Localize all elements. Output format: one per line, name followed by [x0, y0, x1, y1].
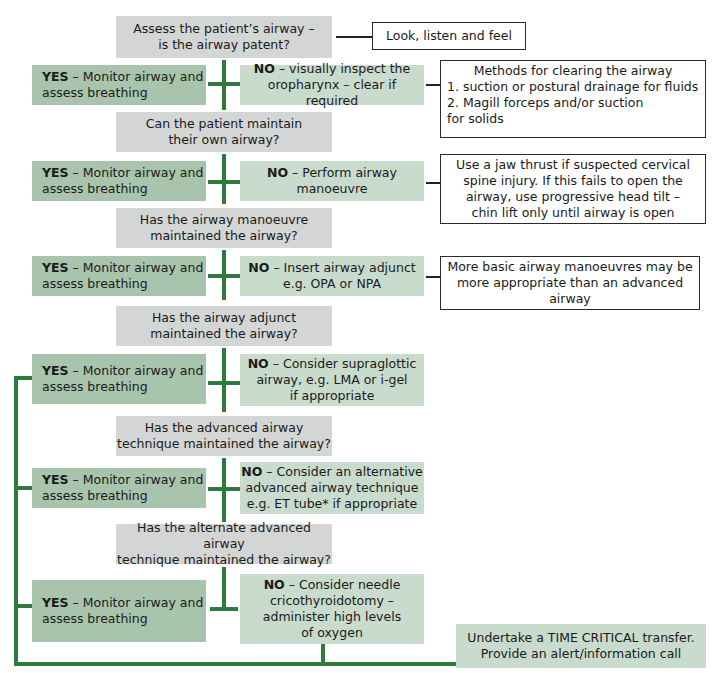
yes-bracket-line [14, 376, 18, 666]
note-item: 1. suction or postural drainage for flui… [447, 79, 699, 95]
no-text: NO – Perform airway manoeuvre [267, 165, 397, 197]
question-text: Has the advanced airway technique mainta… [117, 420, 331, 452]
yes-box: YES – Monitor airway and assess breathin… [32, 161, 206, 201]
connector-line [426, 276, 440, 278]
final-transfer-box: Undertake a TIME CRITICAL transfer. Prov… [456, 624, 706, 668]
question-manoeuvre-maintained: Has the airway manoeuvre maintained the … [116, 208, 332, 248]
yes-text: YES – Monitor airway and assess breathin… [42, 260, 203, 292]
no-text: NO – Consider needle cricothyroidotomy –… [263, 577, 401, 641]
yes-box: YES – Monitor airway and assess breathin… [32, 256, 206, 296]
final-text: Undertake a TIME CRITICAL transfer. Prov… [467, 630, 694, 662]
no-text: NO – Insert airway adjunct e.g. OPA or N… [248, 260, 415, 292]
question-text: Has the alternate advanced airway techni… [116, 520, 332, 568]
note-text: Look, listen and feel [386, 28, 512, 44]
yes-text: YES – Monitor airway and assess breathin… [42, 595, 203, 627]
connector-line [208, 180, 240, 184]
bottom-connector-line [14, 662, 456, 666]
note-text: More basic airway manoeuvres may be more… [447, 259, 692, 307]
connector-tick [14, 486, 32, 490]
question-text: Assess the patient’s airway – is the air… [133, 21, 314, 53]
connector-line [222, 567, 226, 611]
yes-text: YES – Monitor airway and assess breathin… [42, 472, 203, 504]
question-maintain-airway: Can the patient maintain their own airwa… [116, 112, 332, 152]
connector-line [208, 274, 240, 278]
no-text: NO – visually inspect the oropharynx – c… [240, 61, 424, 109]
note-clearing-methods: Methods for clearing the airway 1. sucti… [440, 60, 706, 138]
no-text: NO – Consider supraglottic airway, e.g. … [248, 356, 417, 404]
connector-line [321, 644, 325, 664]
yes-text: YES – Monitor airway and assess breathin… [42, 69, 203, 101]
yes-box: YES – Monitor airway and assess breathin… [32, 580, 206, 642]
yes-text: YES – Monitor airway and assess breathin… [42, 165, 203, 197]
yes-box: YES – Monitor airway and assess breathin… [32, 65, 206, 105]
yes-box: YES – Monitor airway and assess breathin… [32, 468, 206, 508]
connector-line [208, 82, 240, 86]
no-box: NO – Perform airway manoeuvre [240, 161, 424, 201]
connector-line [210, 607, 238, 611]
question-text: Has the airway adjunct maintained the ai… [150, 310, 297, 342]
connector-line [222, 348, 226, 412]
note-title: Methods for clearing the airway [447, 63, 699, 79]
connector-line [222, 154, 226, 204]
no-box: NO – Consider an alternative advanced ai… [240, 462, 424, 514]
connector-line [336, 36, 372, 38]
connector-line [426, 182, 440, 184]
question-advanced-maintained: Has the advanced airway technique mainta… [116, 416, 332, 456]
question-adjunct-maintained: Has the airway adjunct maintained the ai… [116, 306, 332, 346]
no-text: NO – Consider an alternative advanced ai… [241, 464, 423, 512]
yes-text: YES – Monitor airway and assess breathin… [42, 363, 203, 395]
no-box: NO – Consider supraglottic airway, e.g. … [240, 354, 424, 406]
note-text: Use a jaw thrust if suspected cervical s… [456, 157, 690, 221]
question-text: Can the patient maintain their own airwa… [146, 116, 302, 148]
question-alternate-maintained: Has the alternate advanced airway techni… [116, 524, 332, 564]
question-airway-patent: Assess the patient’s airway – is the air… [116, 16, 332, 58]
note-look-listen-feel: Look, listen and feel [372, 22, 526, 50]
no-box: NO – Consider needle cricothyroidotomy –… [240, 574, 424, 644]
connector-line [208, 487, 240, 491]
note-jaw-thrust: Use a jaw thrust if suspected cervical s… [440, 154, 706, 224]
question-text: Has the airway manoeuvre maintained the … [140, 212, 309, 244]
note-item: 2. Magill forceps and/or suction for sol… [447, 95, 699, 127]
no-box: NO – Insert airway adjunct e.g. OPA or N… [240, 256, 424, 296]
note-basic-manoeuvres: More basic airway manoeuvres may be more… [440, 256, 700, 310]
connector-tick [14, 376, 32, 380]
yes-box: YES – Monitor airway and assess breathin… [32, 354, 206, 404]
no-box: NO – visually inspect the oropharynx – c… [240, 65, 424, 105]
connector-line [208, 381, 240, 385]
connector-line [426, 84, 440, 86]
connector-tick [14, 604, 32, 608]
